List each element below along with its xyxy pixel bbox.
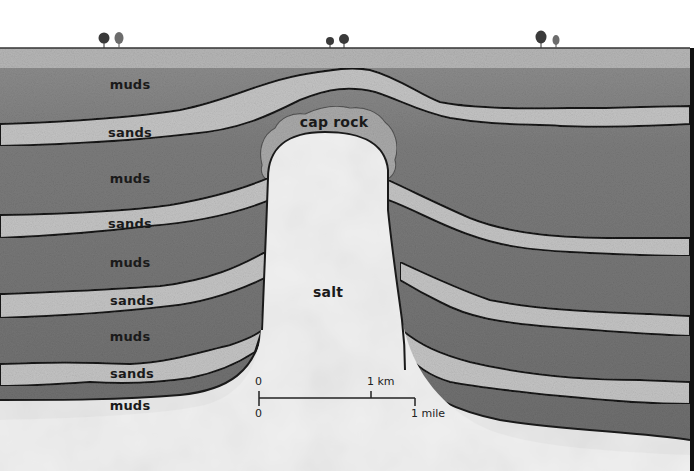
label-muds-1: muds bbox=[110, 77, 151, 92]
label-cap-rock: cap rock bbox=[300, 114, 368, 130]
label-salt: salt bbox=[313, 284, 343, 300]
label-sands-4: sands bbox=[110, 366, 154, 381]
scale-km-start: 0 bbox=[255, 375, 262, 388]
label-muds-2: muds bbox=[110, 171, 151, 186]
label-muds-5: muds bbox=[110, 398, 151, 413]
label-muds-4: muds bbox=[110, 329, 151, 344]
label-sands-1: sands bbox=[108, 125, 152, 140]
cross-section-graphic bbox=[0, 0, 694, 471]
surface-layer bbox=[0, 48, 690, 68]
scale-mile-start: 0 bbox=[255, 407, 262, 420]
scale-mile-end: 1 mile bbox=[411, 407, 445, 420]
label-muds-3: muds bbox=[110, 255, 151, 270]
label-sands-2: sands bbox=[108, 216, 152, 231]
right-edge-border bbox=[690, 48, 694, 471]
salt-dome-diagram: muds sands muds sands muds sands muds sa… bbox=[0, 0, 694, 471]
label-sands-3: sands bbox=[110, 293, 154, 308]
scale-km-end: 1 km bbox=[367, 375, 395, 388]
